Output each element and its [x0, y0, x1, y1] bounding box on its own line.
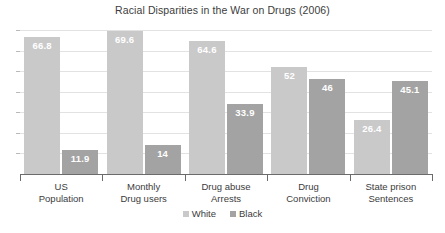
- axis-divider: [102, 174, 103, 181]
- bar-group: 69.614: [102, 30, 184, 174]
- bar-value-label: 26.4: [354, 123, 390, 134]
- category-label-line: Drug abuse: [185, 181, 267, 193]
- category-label-line: Population: [20, 193, 102, 205]
- category-label-line: Drug: [267, 181, 349, 193]
- bars-layer: 66.811.969.61464.633.9524626.445.1: [20, 30, 432, 174]
- bar-white[interactable]: 69.6: [107, 31, 143, 174]
- category-label-0: USPopulation: [20, 181, 102, 204]
- bar-value-label: 64.6: [189, 44, 225, 55]
- bar-group: 66.811.9: [20, 30, 102, 174]
- category-label-line: Drug users: [102, 193, 184, 205]
- category-label-line: State prison: [350, 181, 432, 193]
- legend-label: White: [192, 208, 216, 219]
- bar-value-label: 14: [145, 148, 181, 159]
- bar-group: 26.445.1: [350, 30, 432, 174]
- bar-value-label: 33.9: [227, 107, 263, 118]
- axis-divider: [185, 174, 186, 181]
- axis-divider: [20, 174, 21, 181]
- category-label-3: DrugConviction: [267, 181, 349, 204]
- bar-chart: Racial Disparities in the War on Drugs (…: [0, 0, 445, 233]
- legend-label: Black: [239, 208, 262, 219]
- bar-value-label: 66.8: [24, 40, 60, 51]
- bar-white[interactable]: 26.4: [354, 120, 390, 174]
- category-label-4: State prisonSentences: [350, 181, 432, 204]
- bar-value-label: 11.9: [62, 153, 98, 164]
- chart-legend: WhiteBlack: [0, 208, 445, 219]
- bar-white[interactable]: 64.6: [189, 41, 225, 174]
- x-axis-line: [20, 174, 432, 175]
- bar-white[interactable]: 66.8: [24, 37, 60, 174]
- axis-divider: [432, 174, 433, 181]
- category-label-line: Monthly: [102, 181, 184, 193]
- bar-black[interactable]: 14: [145, 145, 181, 174]
- category-label-1: MonthlyDrug users: [102, 181, 184, 204]
- category-label-2: Drug abuseArrests: [185, 181, 267, 204]
- category-label-line: US: [20, 181, 102, 193]
- axis-divider: [267, 174, 268, 181]
- bar-value-label: 45.1: [392, 84, 428, 95]
- bar-black[interactable]: 33.9: [227, 104, 263, 174]
- category-label-line: Sentences: [350, 193, 432, 205]
- bar-value-label: 69.6: [107, 34, 143, 45]
- bar-black[interactable]: 46: [309, 79, 345, 174]
- bar-white[interactable]: 52: [271, 67, 307, 174]
- x-axis-category-labels: USPopulationMonthlyDrug usersDrug abuseA…: [20, 181, 432, 204]
- legend-item-black[interactable]: Black: [230, 208, 262, 219]
- bar-group: 5246: [267, 30, 349, 174]
- category-label-line: Arrests: [185, 193, 267, 205]
- category-label-line: Conviction: [267, 193, 349, 205]
- chart-title: Racial Disparities in the War on Drugs (…: [0, 4, 445, 16]
- bar-black[interactable]: 45.1: [392, 81, 428, 174]
- axis-divider: [350, 174, 351, 181]
- plot-area: 66.811.969.61464.633.9524626.445.1: [20, 30, 432, 174]
- legend-swatch-icon: [183, 211, 189, 217]
- legend-item-white[interactable]: White: [183, 208, 216, 219]
- bar-value-label: 46: [309, 82, 345, 93]
- legend-swatch-icon: [230, 211, 236, 217]
- bar-group: 64.633.9: [185, 30, 267, 174]
- bar-black[interactable]: 11.9: [62, 150, 98, 174]
- bar-value-label: 52: [271, 70, 307, 81]
